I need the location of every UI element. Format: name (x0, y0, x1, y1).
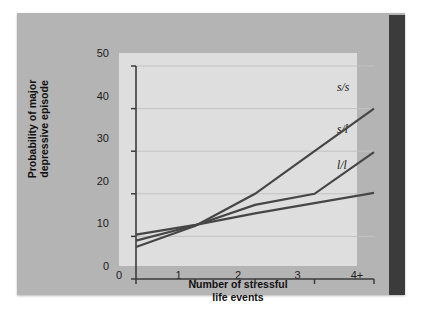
gridlines-group (136, 66, 374, 236)
series-paths-group (136, 109, 374, 247)
chart-canvas (17, 13, 421, 315)
chart-card: Probability of major depressive episode … (17, 13, 405, 295)
axes-group (131, 66, 374, 284)
series-line-l-l (136, 193, 374, 235)
figure-container: Probability of major depressive episode … (0, 0, 421, 315)
series-line-s-l (136, 152, 374, 241)
axis-lines (136, 66, 374, 279)
right-dark-spine (389, 15, 405, 295)
